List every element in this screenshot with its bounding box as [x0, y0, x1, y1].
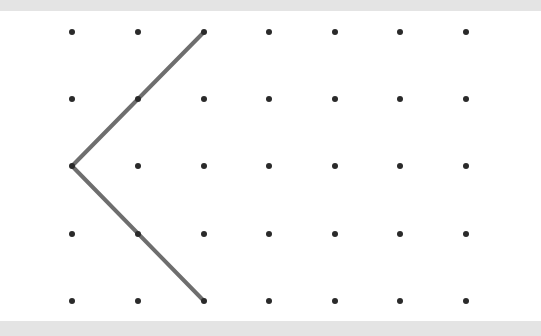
grid-dot — [201, 163, 207, 169]
grid-dot — [135, 29, 141, 35]
grid-dot — [266, 96, 272, 102]
grid-dot — [266, 298, 272, 304]
grid-dot — [135, 163, 141, 169]
grid-dot — [69, 29, 75, 35]
grid-dot — [332, 231, 338, 237]
grid-dot — [397, 298, 403, 304]
grid-dot — [463, 298, 469, 304]
grid-dot — [397, 231, 403, 237]
grid-dot — [201, 298, 207, 304]
grid-dot — [266, 29, 272, 35]
grid-dot — [463, 29, 469, 35]
grid-dot — [463, 231, 469, 237]
grid-dot — [69, 96, 75, 102]
grid-dot — [135, 231, 141, 237]
grid-dot — [201, 96, 207, 102]
grid-dot — [397, 29, 403, 35]
grid-dot — [332, 298, 338, 304]
grid-dot — [69, 298, 75, 304]
grid-dot — [332, 163, 338, 169]
dot-grid — [69, 29, 469, 304]
grid-dot — [69, 231, 75, 237]
grid-dot — [397, 96, 403, 102]
grid-dot — [69, 163, 75, 169]
grid-dot — [135, 298, 141, 304]
grid-dot — [463, 96, 469, 102]
grid-dot — [201, 231, 207, 237]
grid-dot — [332, 29, 338, 35]
grid-dot — [201, 29, 207, 35]
grid-dot — [266, 163, 272, 169]
grid-dot — [135, 96, 141, 102]
grid-dot — [332, 96, 338, 102]
dot-grid-canvas — [0, 0, 541, 336]
grid-dot — [266, 231, 272, 237]
grid-dot — [463, 163, 469, 169]
grid-dot — [397, 163, 403, 169]
